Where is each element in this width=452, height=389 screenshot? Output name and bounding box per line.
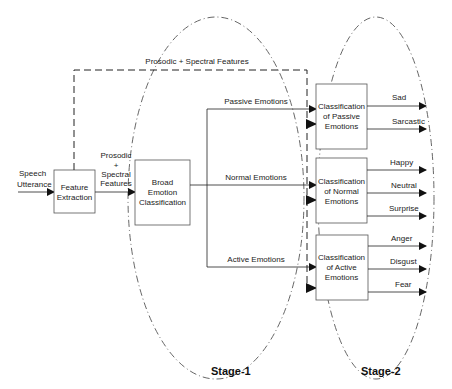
features-edge-label-3: Spectral (101, 170, 131, 179)
active-classifier-label-3: Emotions (325, 273, 358, 282)
input-label-1: Speech (19, 169, 46, 178)
passive-classifier-label-1: Classification (318, 102, 365, 111)
feature-extraction-label-2: Extraction (57, 193, 93, 202)
feedback-label: Prosodic + Spectral Features (145, 57, 248, 66)
features-edge-label-1: Prosodic (100, 151, 131, 160)
broad-emotion-label-1: Broad (152, 178, 173, 187)
output-label-happy: Happy (390, 158, 413, 167)
features-edge-label-2: + (114, 161, 119, 170)
active-classifier-label-1: Classification (318, 253, 365, 262)
stage2-label: Stage-2 (361, 365, 401, 377)
features-edge-label-4: Features (100, 179, 132, 188)
normal-branch-label: Normal Emotions (225, 173, 286, 182)
passive-classifier-label-3: Emotions (325, 122, 358, 131)
stage1-label: Stage-1 (211, 365, 251, 377)
broad-emotion-label-2: Emotion (148, 188, 177, 197)
passive-branch-label: Passive Emotions (224, 97, 288, 106)
normal-classifier-label-1: Classification (318, 177, 365, 186)
output-label-sad: Sad (392, 93, 406, 102)
input-label-2: Utterance (17, 180, 52, 189)
output-label-anger: Anger (391, 234, 413, 243)
output-label-fear: Fear (395, 280, 412, 289)
feature-extraction-label-1: Feature (61, 183, 89, 192)
two-stage-emotion-diagram: Speech Utterance Feature Extraction Pros… (0, 0, 452, 389)
output-label-surprise: Surprise (389, 204, 419, 213)
output-label-disgust: Disgust (390, 257, 417, 266)
normal-classifier-label-2: of Normal (324, 187, 359, 196)
output-label-sarcastic: Sarcastic (392, 117, 425, 126)
output-label-neutral: Neutral (391, 181, 417, 190)
active-branch-label: Active Emotions (227, 255, 284, 264)
active-classifier-label-2: of Active (326, 263, 357, 272)
broad-emotion-label-3: Classification (139, 198, 186, 207)
passive-classifier-label-2: of Passive (323, 112, 360, 121)
normal-classifier-label-3: Emotions (325, 197, 358, 206)
